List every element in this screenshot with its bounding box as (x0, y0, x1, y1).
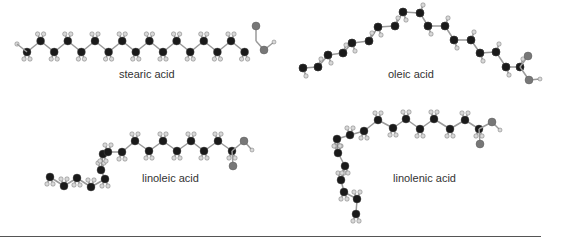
label-stearic-acid: stearic acid (119, 68, 175, 80)
label-oleic-acid: oleic acid (388, 68, 434, 80)
label-linolenic-acid: linolenic acid (393, 172, 456, 184)
horizontal-rule (0, 236, 541, 237)
fatty-acid-diagram (0, 0, 564, 240)
label-linoleic-acid: linoleic acid (142, 172, 199, 184)
